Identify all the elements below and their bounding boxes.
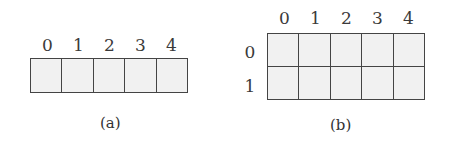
cell-a-1 [62, 59, 93, 92]
array-2d-grid [267, 33, 425, 100]
caption-a: (a) [100, 114, 121, 132]
cell-b-0-4 [394, 34, 425, 67]
col-label-a-3: 3 [125, 36, 156, 54]
col-label-b-0: 0 [269, 9, 300, 27]
cell-b-0-1 [299, 34, 330, 67]
col-label-a-0: 0 [32, 36, 63, 54]
cell-a-2 [94, 59, 125, 92]
col-label-a-2: 2 [94, 36, 125, 54]
row-label-b-1: 1 [240, 77, 260, 95]
cell-a-0 [31, 59, 62, 92]
cell-b-0-2 [331, 34, 362, 67]
cell-b-1-1 [299, 67, 330, 100]
cell-a-4 [157, 59, 188, 92]
col-label-b-2: 2 [331, 9, 362, 27]
caption-b: (b) [330, 116, 351, 134]
cell-b-1-4 [394, 67, 425, 100]
cell-a-3 [125, 59, 156, 92]
cell-b-1-2 [331, 67, 362, 100]
row-label-b-0: 0 [240, 43, 260, 61]
cell-b-0-0 [268, 34, 299, 67]
cell-b-0-3 [362, 34, 393, 67]
cell-b-1-3 [362, 67, 393, 100]
col-label-a-1: 1 [63, 36, 94, 54]
col-label-b-1: 1 [300, 9, 331, 27]
cell-b-1-0 [268, 67, 299, 100]
array-1d-grid [30, 58, 188, 93]
col-label-b-3: 3 [362, 9, 393, 27]
col-label-a-4: 4 [156, 36, 187, 54]
col-label-b-4: 4 [393, 9, 424, 27]
